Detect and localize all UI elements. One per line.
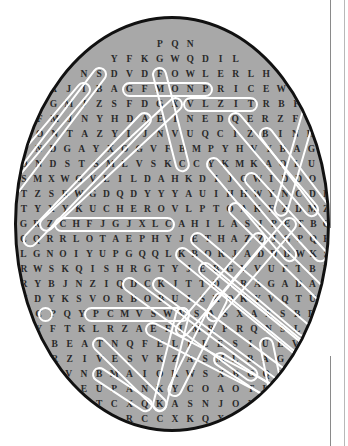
grid-letter[interactable]: D	[305, 187, 319, 202]
grid-letter[interactable]: S	[241, 217, 254, 232]
grid-letter[interactable]: N	[43, 247, 56, 262]
grid-letter[interactable]: S	[198, 352, 213, 367]
grid-letter[interactable]: T	[60, 322, 74, 337]
grid-letter[interactable]: J	[31, 367, 46, 382]
grid-letter[interactable]: J	[213, 397, 228, 412]
grid-letter[interactable]: E	[76, 382, 91, 397]
grid-letter[interactable]: T	[243, 97, 258, 112]
grid-letter[interactable]: H	[149, 232, 162, 247]
grid-letter[interactable]: V	[288, 337, 303, 352]
grid-letter[interactable]: V	[132, 307, 146, 322]
grid-letter[interactable]: P	[46, 307, 60, 322]
grid-letter[interactable]: W	[31, 262, 45, 277]
letter-grid[interactable]: PQNYFKGWQDILNSDVDFOWLERLHAJIBAGFMONPRICE…	[17, 19, 330, 432]
grid-letter[interactable]: R	[47, 352, 62, 367]
grid-letter[interactable]: A	[132, 322, 146, 337]
grid-letter[interactable]: V	[137, 352, 152, 367]
grid-letter[interactable]: D	[278, 172, 292, 187]
grid-letter[interactable]: F	[161, 322, 175, 337]
grid-letter[interactable]: Y	[218, 142, 232, 157]
grid-letter[interactable]: L	[228, 352, 243, 367]
grid-letter[interactable]: A	[137, 112, 152, 127]
grid-letter[interactable]: F	[319, 187, 330, 202]
grid-letter[interactable]: F	[183, 337, 198, 352]
grid-letter[interactable]: R	[43, 232, 56, 247]
grid-letter[interactable]: S	[45, 187, 59, 202]
grid-letter[interactable]: J	[76, 97, 91, 112]
grid-letter[interactable]: A	[46, 82, 61, 97]
grid-letter[interactable]: B	[127, 292, 141, 307]
grid-letter[interactable]: L	[182, 202, 196, 217]
grid-letter[interactable]: N	[72, 277, 86, 292]
grid-letter[interactable]: Y	[261, 142, 275, 157]
grid-letter[interactable]: S	[91, 67, 106, 82]
grid-letter[interactable]: K	[58, 262, 72, 277]
grid-letter[interactable]: W	[183, 367, 198, 382]
grid-letter[interactable]: I	[76, 82, 91, 97]
grid-letter[interactable]: X	[135, 217, 148, 232]
grid-letter[interactable]: N	[107, 337, 122, 352]
grid-letter[interactable]: H	[237, 187, 251, 202]
grid-letter[interactable]: R	[17, 262, 31, 277]
grid-letter[interactable]: U	[264, 262, 278, 277]
grid-letter[interactable]: E	[280, 217, 293, 232]
grid-letter[interactable]: T	[96, 232, 109, 247]
grid-letter[interactable]: T	[17, 202, 31, 217]
grid-letter[interactable]: T	[17, 187, 31, 202]
grid-letter[interactable]: S	[318, 337, 330, 352]
grid-letter[interactable]: L	[89, 322, 103, 337]
grid-letter[interactable]: U	[196, 187, 210, 202]
grid-letter[interactable]: V	[61, 367, 76, 382]
grid-letter[interactable]: N	[261, 322, 275, 337]
grid-letter[interactable]: Z	[31, 187, 45, 202]
grid-letter[interactable]: Z	[273, 112, 288, 127]
grid-letter[interactable]: C	[103, 307, 117, 322]
grid-letter[interactable]: U	[304, 157, 318, 172]
grid-letter[interactable]: S	[89, 157, 103, 172]
grid-letter[interactable]: Y	[31, 277, 45, 292]
grid-letter[interactable]: Z	[91, 97, 106, 112]
grid-letter[interactable]: X	[261, 307, 275, 322]
grid-letter[interactable]: V	[264, 292, 278, 307]
grid-letter[interactable]: A	[154, 172, 168, 187]
grid-letter[interactable]: E	[127, 202, 141, 217]
grid-letter[interactable]: H	[70, 217, 83, 232]
grid-letter[interactable]: H	[318, 112, 330, 127]
grid-letter[interactable]: U	[305, 292, 319, 307]
grid-letter[interactable]: G	[264, 277, 278, 292]
grid-letter[interactable]: J	[122, 217, 135, 232]
grid-letter[interactable]: V	[168, 202, 182, 217]
grid-letter[interactable]: G	[273, 352, 288, 367]
grid-letter[interactable]: W	[183, 67, 198, 82]
grid-letter[interactable]: O	[201, 247, 214, 262]
grid-letter[interactable]: J	[267, 232, 280, 247]
grid-letter[interactable]: G	[30, 247, 43, 262]
grid-letter[interactable]: G	[141, 262, 155, 277]
grid-letter[interactable]: R	[213, 82, 228, 97]
grid-letter[interactable]: Q	[167, 37, 182, 52]
grid-letter[interactable]: O	[228, 397, 243, 412]
grid-letter[interactable]: X	[167, 97, 182, 112]
grid-letter[interactable]: L	[215, 217, 228, 232]
grid-letter[interactable]: G	[132, 142, 146, 157]
grid-letter[interactable]: G	[60, 142, 74, 157]
grid-letter[interactable]: P	[289, 82, 304, 97]
grid-letter[interactable]: S	[196, 292, 210, 307]
grid-letter[interactable]: F	[83, 217, 96, 232]
grid-letter[interactable]: G	[289, 367, 304, 382]
grid-letter[interactable]: C	[141, 277, 155, 292]
grid-letter[interactable]: D	[99, 187, 113, 202]
grid-letter[interactable]: Q	[278, 292, 292, 307]
grid-letter[interactable]: W	[152, 427, 167, 432]
grid-letter[interactable]: A	[228, 217, 241, 232]
grid-letter[interactable]: T	[303, 112, 318, 127]
grid-letter[interactable]: O	[141, 292, 155, 307]
grid-letter[interactable]: N	[77, 112, 92, 127]
grid-letter[interactable]: L	[17, 247, 30, 262]
grid-letter[interactable]: Z	[46, 367, 61, 382]
grid-letter[interactable]: B	[228, 367, 243, 382]
grid-letter[interactable]: A	[204, 307, 218, 322]
grid-letter[interactable]: H	[232, 142, 246, 157]
grid-letter[interactable]: Z	[254, 232, 267, 247]
grid-letter[interactable]: C	[189, 157, 203, 172]
